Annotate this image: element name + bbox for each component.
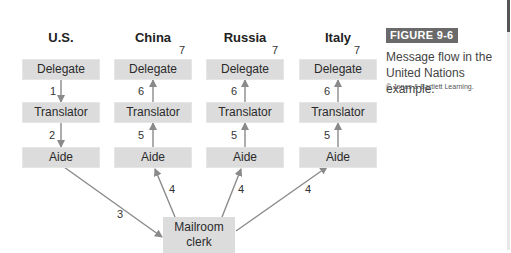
russia-aide-box: Aide: [207, 148, 283, 167]
us-delegate-box: Delegate: [23, 60, 99, 79]
step-label-6-china: 6: [138, 85, 144, 97]
russia-delegate-box: Delegate: [207, 60, 283, 79]
step-label-2: 2: [49, 129, 55, 141]
figure-badge: FIGURE 9-6: [386, 28, 458, 43]
step-label-7-russia: 7: [272, 44, 278, 56]
mailroom-clerk-box: Mailroom clerk: [163, 217, 235, 253]
step-label-4-russia: 4: [238, 183, 244, 195]
column-title-china: China: [113, 30, 193, 45]
china-translator-box: Translator: [115, 103, 191, 122]
us-translator-box: Translator: [23, 103, 99, 122]
copyright-text: © Jones & Bartlett Learning.: [386, 83, 474, 90]
column-title-russia: Russia: [205, 30, 285, 45]
italy-delegate-box: Delegate: [300, 60, 376, 79]
step-label-7-italy: 7: [354, 44, 360, 56]
step-label-6-italy: 6: [324, 85, 330, 97]
column-title-italy: Italy: [298, 30, 378, 45]
italy-translator-box: Translator: [300, 103, 376, 122]
italy-aide-box: Aide: [300, 148, 376, 167]
step-label-4-italy: 4: [305, 183, 311, 195]
mailroom-line1: Mailroom: [163, 220, 235, 235]
step-label-1: 1: [50, 85, 56, 97]
china-aide-box: Aide: [115, 148, 191, 167]
caption-line1: Message flow in the: [386, 49, 506, 65]
step-label-5-italy: 5: [324, 129, 330, 141]
china-delegate-box: Delegate: [115, 60, 191, 79]
us-aide-box: Aide: [23, 148, 99, 167]
caption-line2: United Nations example.: [386, 65, 506, 97]
step-label-5-russia: 5: [231, 129, 237, 141]
page-edge-bar: [507, 0, 510, 250]
step-label-4-china: 4: [169, 183, 175, 195]
russia-translator-box: Translator: [207, 103, 283, 122]
step-label-3: 3: [117, 208, 123, 220]
step-label-7-china: 7: [179, 44, 185, 56]
column-title-us: U.S.: [21, 30, 101, 45]
page-edge-marker: [507, 0, 510, 32]
mailroom-line2: clerk: [163, 235, 235, 250]
step-label-5-china: 5: [138, 129, 144, 141]
step-label-6-russia: 6: [231, 85, 237, 97]
